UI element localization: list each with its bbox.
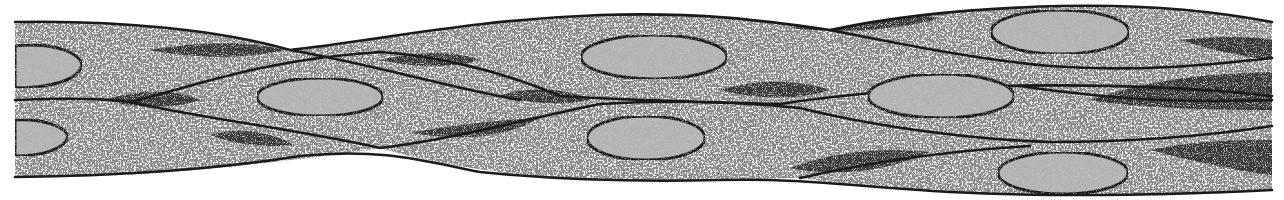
illustration-canvas [0, 0, 1284, 200]
nucleus-6 [991, 10, 1129, 54]
nucleus-7 [868, 74, 1014, 118]
nucleus-3 [257, 78, 383, 116]
nucleus-5 [587, 116, 705, 160]
smooth-muscle-illustration [0, 0, 1284, 200]
nucleus-8 [998, 152, 1128, 194]
nucleus-4 [581, 35, 727, 79]
